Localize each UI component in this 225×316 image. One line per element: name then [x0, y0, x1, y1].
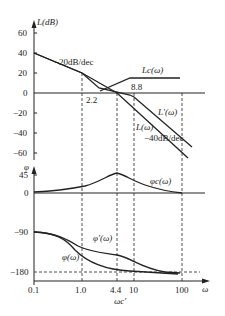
tick-pm90: −90: [14, 228, 28, 237]
tick-p0: 0: [24, 189, 29, 198]
label-phi-c: φc(ω): [150, 177, 171, 186]
label-Lc: Lc(ω): [142, 66, 163, 75]
tick-m40: −40: [13, 129, 27, 138]
magnitude-axis-label: L(dB): [37, 18, 58, 27]
label-L: L(ω): [136, 123, 153, 132]
label-phi-prime: φ'(ω): [93, 234, 112, 243]
arrow-icon: [32, 20, 37, 28]
tick-p45: 45: [19, 171, 28, 180]
tick-m20: −20: [13, 109, 27, 118]
frequency-guides: [34, 73, 200, 281]
tick-20: 20: [18, 69, 27, 78]
slope-label-20: −20dB/dec: [54, 58, 94, 67]
xtick-10: 10: [129, 286, 138, 295]
label-L-prime: L'(ω): [158, 108, 177, 117]
omega-c-label: ωc': [114, 297, 126, 306]
tick-60: 60: [18, 29, 27, 38]
tick-40: 40: [18, 49, 27, 58]
xtick-100: 100: [175, 286, 189, 295]
xtick-1: 1.0: [75, 286, 86, 295]
bode-plot: [0, 0, 225, 316]
tick-m60: −60: [13, 149, 27, 158]
xtick-0-1: 0.1: [28, 286, 39, 295]
freq-2-2: 2.2: [86, 96, 97, 105]
xtick-4-4: 4.4: [110, 286, 121, 295]
label-phi: φ(ω): [62, 253, 79, 262]
tick-pm180: −180: [10, 268, 29, 277]
tick-0: 0: [23, 89, 28, 98]
freq-8-8: 8.8: [131, 83, 142, 92]
slope-label-40: −40dB/dec: [144, 134, 184, 143]
x-axis-label: ω: [202, 285, 208, 294]
